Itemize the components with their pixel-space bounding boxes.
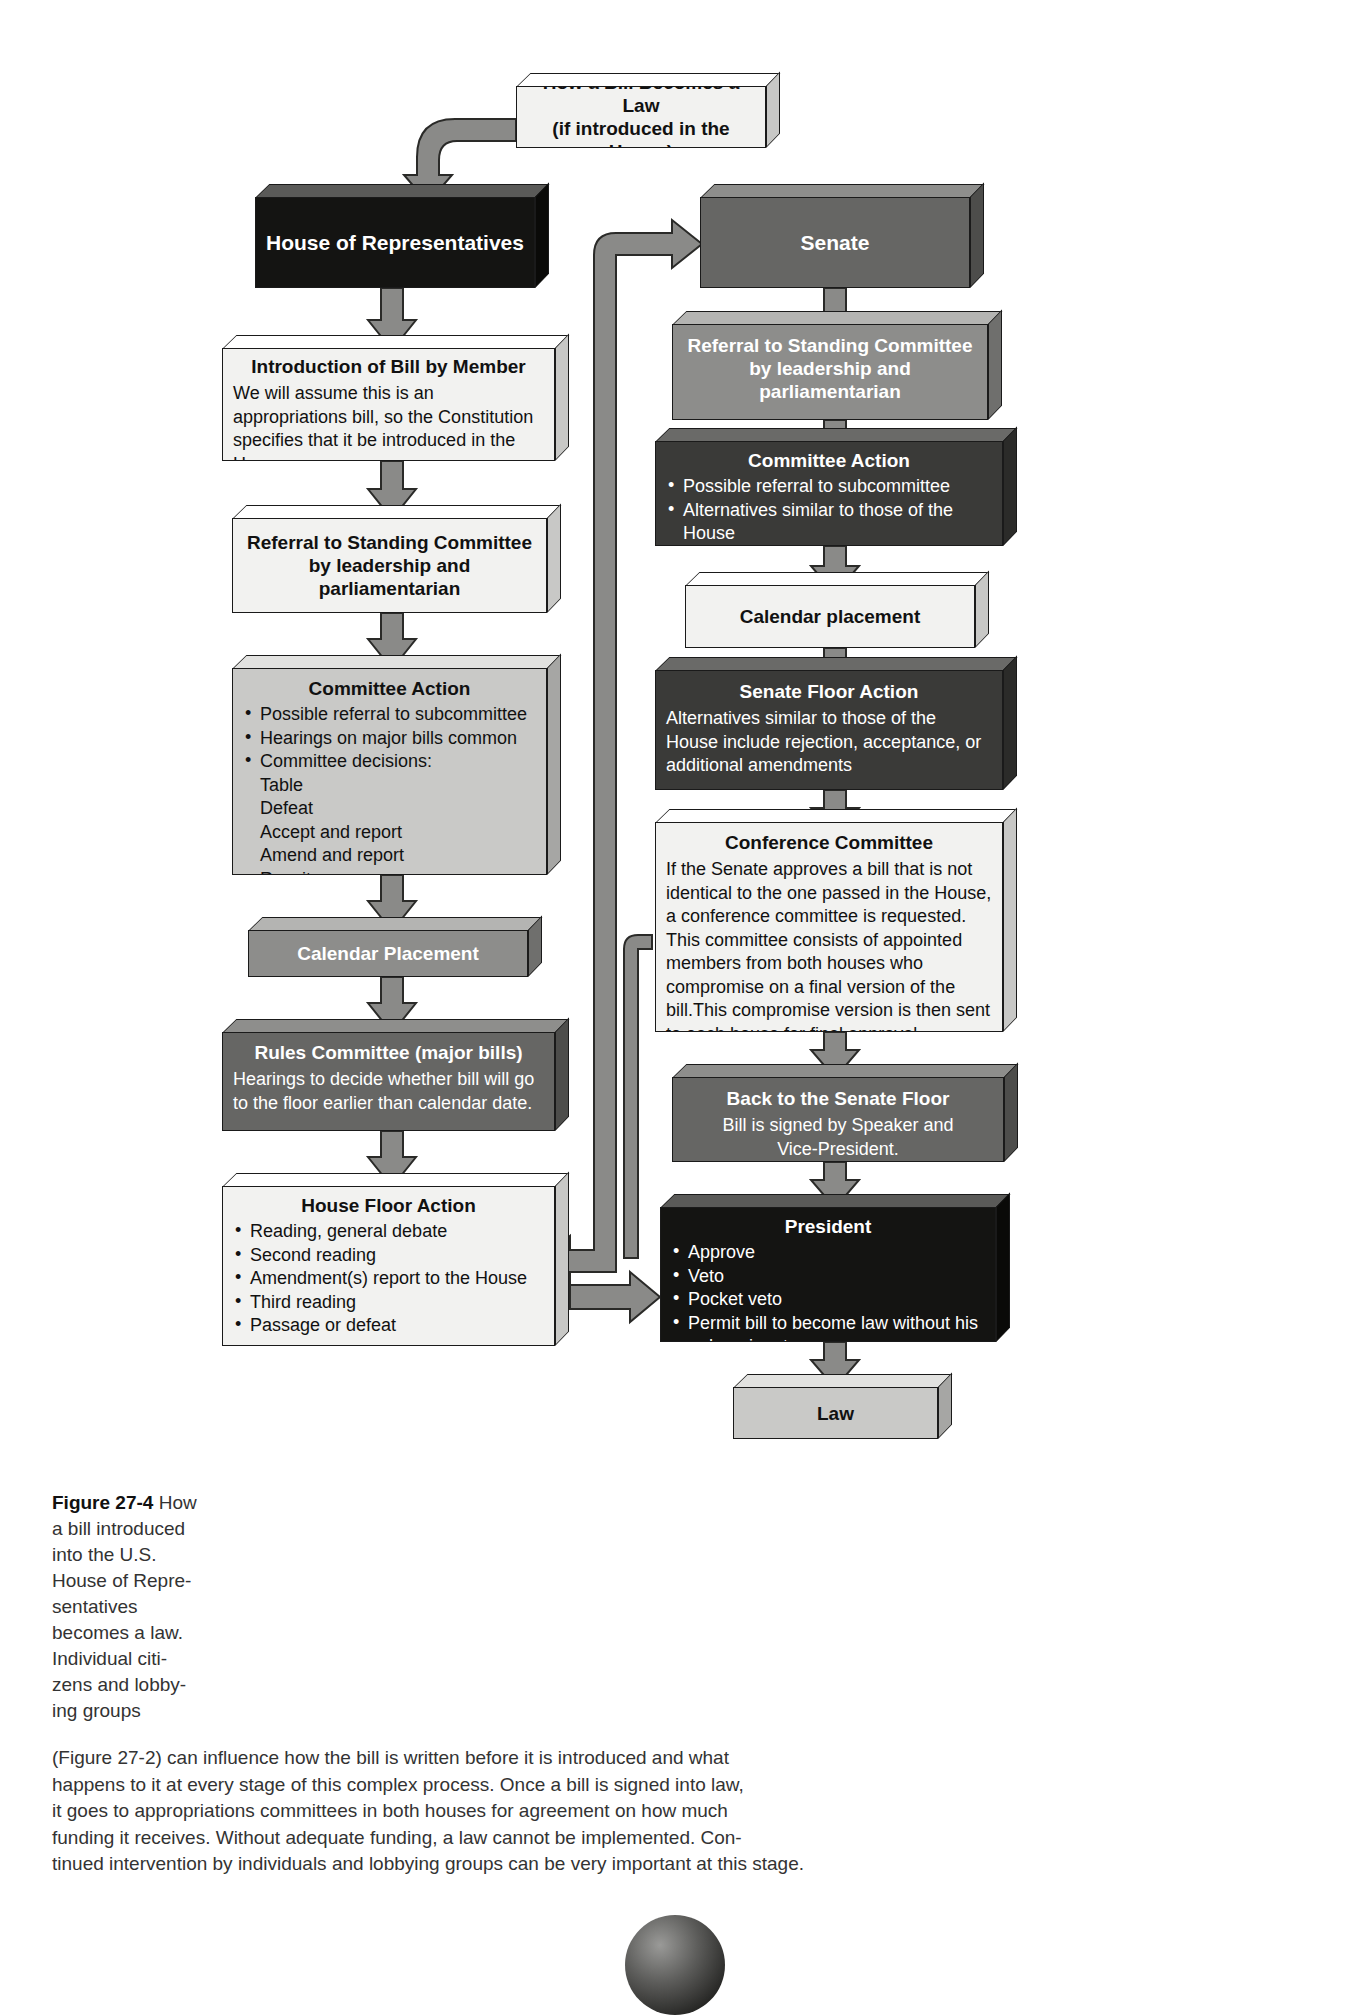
figure-caption-side-6: Individual citi-	[52, 1648, 167, 1669]
president-bullet-3: Permit bill to become law without his or…	[671, 1312, 985, 1343]
senate-referral-line-3: parliamentarian	[683, 380, 977, 403]
introduction-of-bill-box: Introduction of Bill by Member We will a…	[222, 348, 555, 461]
figure-caption-body: (Figure 27-2) can influence how the bill…	[52, 1745, 952, 1878]
house-header-box: House of Representatives	[255, 197, 535, 288]
decorative-sphere	[625, 1915, 725, 2015]
house-rules-committee-box: Rules Committee (major bills) Hearings t…	[222, 1032, 555, 1131]
house-referral-line-3: parliamentarian	[243, 577, 536, 600]
senate-referral-box: Referral to Standing Committee by leader…	[672, 324, 988, 420]
president-bullet-2: Pocket veto	[671, 1288, 985, 1312]
figure-caption-side-7: zens and lobby-	[52, 1674, 186, 1695]
house-calendar-label: Calendar Placement	[259, 942, 517, 965]
figure-caption-side-3: House of Repre-	[52, 1570, 191, 1591]
figure-caption-side-2: into the U.S.	[52, 1544, 157, 1565]
house-committee-decision-2: Accept and report	[243, 821, 536, 845]
conference-title: Conference Committee	[666, 831, 992, 854]
figure-caption-side: Figure 27-4 How a bill introduced into t…	[52, 1490, 217, 1724]
figure-caption-body-0: (Figure 27-2) can influence how the bill…	[52, 1745, 952, 1772]
senate-floor-body: Alternatives similar to those of the Hou…	[666, 707, 992, 778]
figure-caption-label: Figure 27-4	[52, 1492, 153, 1513]
introduction-title: Introduction of Bill by Member	[233, 355, 544, 378]
house-committee-action-box: Committee Action Possible referral to su…	[232, 668, 547, 875]
senate-referral-line-2: by leadership and	[683, 357, 977, 380]
arrow-conference-to-house-floor	[624, 935, 652, 1258]
house-calendar-placement-box: Calendar Placement	[248, 930, 528, 977]
senate-header-box: Senate	[700, 197, 970, 288]
house-floor-title: House Floor Action	[233, 1194, 544, 1217]
figure-caption-side-4: sentatives	[52, 1596, 138, 1617]
figure-caption-body-4: tinued intervention by individuals and l…	[52, 1851, 952, 1878]
figure-caption-side-1: a bill introduced	[52, 1518, 185, 1539]
conference-committee-box: Conference Committee If the Senate appro…	[655, 822, 1003, 1032]
senate-floor-action-box: Senate Floor Action Alternatives similar…	[655, 670, 1003, 790]
house-header-label: House of Representatives	[266, 231, 524, 254]
title-box-top	[516, 73, 780, 87]
figure-caption-side-8: ing groups	[52, 1700, 141, 1721]
introduction-body: We will assume this is an appropriations…	[233, 382, 544, 461]
title-line-1: How a Bill Becomes a Law	[527, 86, 755, 117]
senate-referral-line-1: Referral to Standing Committee	[683, 334, 977, 357]
president-box: President Approve Veto Pocket veto Permi…	[660, 1207, 996, 1342]
house-committee-title: Committee Action	[243, 677, 536, 700]
conference-body: If the Senate approves a bill that is no…	[666, 858, 992, 1032]
senate-committee-action-box: Committee Action Possible referral to su…	[655, 441, 1003, 546]
house-floor-bullet-0: Reading, general debate	[233, 1220, 544, 1244]
president-title: President	[671, 1215, 985, 1238]
house-committee-bullets: Possible referral to subcommittee Hearin…	[243, 703, 536, 875]
back-to-floor-title: Back to the Senate Floor	[683, 1087, 993, 1110]
back-to-floor-body-1: Bill is signed by Speaker and	[683, 1114, 993, 1138]
senate-committee-title: Committee Action	[666, 449, 992, 472]
house-rules-title: Rules Committee (major bills)	[233, 1041, 544, 1064]
house-floor-bullet-1: Second reading	[233, 1244, 544, 1268]
senate-committee-bullet-1: Alternatives similar to those of the Hou…	[666, 499, 992, 546]
house-rules-body: Hearings to decide whether bill will go …	[233, 1068, 544, 1115]
title-line-2: (if introduced in the House)	[527, 117, 755, 148]
back-to-floor-body-2: Vice-President.	[683, 1138, 993, 1162]
house-floor-bullets: Reading, general debate Second reading A…	[233, 1220, 544, 1338]
house-referral-box: Referral to Standing Committee by leader…	[232, 518, 547, 613]
figure-caption-body-1: happens to it at every stage of this com…	[52, 1772, 952, 1799]
law-label: Law	[744, 1402, 927, 1425]
senate-committee-bullet-0: Possible referral to subcommittee	[666, 475, 992, 499]
house-floor-bullet-3: Third reading	[233, 1291, 544, 1315]
house-committee-decision-3: Amend and report	[243, 844, 536, 868]
figure-caption-body-3: funding it receives. Without adequate fu…	[52, 1825, 952, 1852]
president-bullets: Approve Veto Pocket veto Permit bill to …	[671, 1241, 985, 1342]
president-bullet-1: Veto	[671, 1265, 985, 1289]
senate-floor-title: Senate Floor Action	[666, 680, 992, 703]
figure-caption-side-5: becomes a law.	[52, 1622, 183, 1643]
figure-caption-side-0: How	[159, 1492, 197, 1513]
figure-caption-body-2: it goes to appropriations committees in …	[52, 1798, 952, 1825]
senate-calendar-label: Calendar placement	[696, 605, 964, 628]
house-floor-bullet-4: Passage or defeat	[233, 1314, 544, 1338]
house-committee-bullet-0: Possible referral to subcommittee	[243, 703, 536, 727]
title-box: How a Bill Becomes a Law (if introduced …	[516, 86, 766, 148]
house-committee-decision-0: Table	[243, 774, 536, 798]
law-box: Law	[733, 1387, 938, 1439]
house-committee-decision-1: Defeat	[243, 797, 536, 821]
house-referral-line-1: Referral to Standing Committee	[243, 531, 536, 554]
house-floor-action-box: House Floor Action Reading, general deba…	[222, 1186, 555, 1346]
house-committee-bullet-1: Hearings on major bills common	[243, 727, 536, 751]
house-referral-line-2: by leadership and	[243, 554, 536, 577]
senate-committee-bullets: Possible referral to subcommittee Altern…	[666, 475, 992, 546]
president-bullet-0: Approve	[671, 1241, 985, 1265]
back-to-senate-floor-box: Back to the Senate Floor Bill is signed …	[672, 1077, 1004, 1162]
senate-calendar-placement-box: Calendar placement	[685, 585, 975, 648]
senate-header-label: Senate	[711, 231, 959, 254]
house-committee-bullet-2: Committee decisions:	[243, 750, 536, 774]
arrow-house-floor-to-president	[570, 1272, 660, 1322]
house-committee-decision-4: Rewrite	[243, 868, 536, 876]
house-floor-bullet-2: Amendment(s) report to the House	[233, 1267, 544, 1291]
